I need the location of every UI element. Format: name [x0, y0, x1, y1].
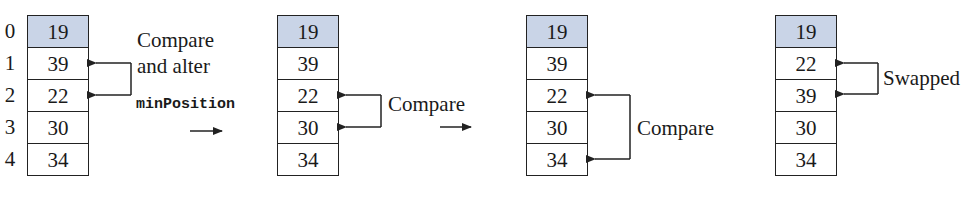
bracket-step-1-icon — [96, 63, 131, 95]
bracket-step-3-icon — [595, 95, 630, 159]
bracket-step-4-icon — [844, 63, 878, 94]
bracket-step-2-icon — [346, 95, 381, 127]
arrows-layer — [0, 0, 976, 207]
